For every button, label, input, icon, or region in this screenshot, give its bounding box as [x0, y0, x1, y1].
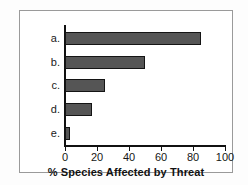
- category-label-c: c.: [51, 80, 60, 91]
- x-tick-label: 100: [216, 151, 234, 163]
- x-axis-line: [64, 145, 226, 147]
- x-axis-title: % Species Affected by Threat: [20, 166, 232, 178]
- category-label-b: b.: [51, 57, 60, 68]
- plot-area: a. b. c. d. e.: [65, 27, 225, 145]
- chart-screenshot: a. b. c. d. e. 020406080100 % Species Af: [0, 0, 248, 185]
- bar-b: [65, 56, 145, 69]
- category-label-a: a.: [51, 33, 60, 44]
- bar-row: b.: [65, 51, 225, 75]
- bar-d: [65, 103, 92, 116]
- bar-row: c.: [65, 74, 225, 98]
- x-tick-label: 80: [187, 151, 199, 163]
- category-label-e: e.: [51, 128, 60, 139]
- x-tick-label: 40: [123, 151, 135, 163]
- bar-row: a.: [65, 27, 225, 51]
- x-tick-label: 0: [62, 151, 68, 163]
- bar-row: e.: [65, 121, 225, 145]
- category-label-d: d.: [51, 104, 60, 115]
- x-tick-label: 20: [91, 151, 103, 163]
- x-tick-label: 60: [155, 151, 167, 163]
- bar-row: d.: [65, 98, 225, 122]
- bar-a: [65, 32, 201, 45]
- figure-frame: a. b. c. d. e. 020406080100 % Species Af: [19, 10, 233, 173]
- bar-c: [65, 79, 105, 92]
- bar-e: [65, 127, 70, 140]
